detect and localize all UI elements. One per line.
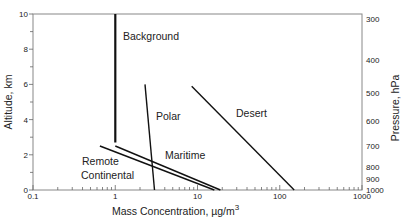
aerosol-profile-chart: 0.11101001000 0246810 300400500600700800… [0,0,409,221]
y2-tick-label: 500 [366,89,380,98]
label-polar: Polar [156,110,181,122]
y2-axis-title: Pressure, hPa [389,75,401,142]
y2-tick-label: 900 [366,175,380,184]
y2-tick-label: 400 [366,56,380,65]
label-remote: Remote [82,155,119,167]
y-axis-title: Altitude, km [2,74,14,129]
y-tick-label: 10 [19,10,28,19]
y2-tick-label: 300 [366,15,380,24]
label-continental: Continental [81,169,134,181]
y-tick-label: 6 [24,80,29,89]
y2-tick-label: 600 [366,117,380,126]
y2-axis-ticks: 3004005006007008009001000 [366,15,384,195]
y-axis-ticks: 0246810 [19,10,33,195]
label-maritime: Maritime [165,149,205,161]
x-axis-title: Mass Concentration, µg/m3 [112,203,240,217]
x-tick-label: 10 [193,192,202,201]
y-tick-label: 0 [24,186,29,195]
x-tick-label: 0.1 [27,192,39,201]
y2-tick-label: 700 [366,142,380,151]
label-background: Background [123,30,179,42]
series-polar [145,84,155,190]
y-tick-label: 2 [24,151,29,160]
series-desert [192,86,295,190]
y-tick-label: 4 [24,116,29,125]
y2-tick-label: 1000 [366,186,384,195]
y-tick-label: 8 [24,45,29,54]
y2-tick-label: 800 [366,163,380,172]
x-tick-label: 1 [113,192,118,201]
x-tick-label: 100 [273,192,287,201]
label-desert: Desert [236,107,267,119]
x-axis-ticks: 0.11101001000 [27,185,371,201]
